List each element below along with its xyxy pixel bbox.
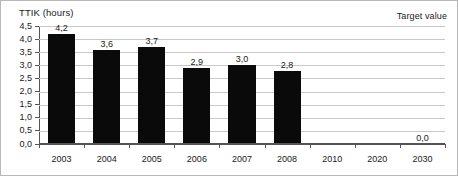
plot-area: 4,23,63,72,93,02,80,0 [39, 26, 445, 144]
x-axis-tick-label-2007: 2007 [219, 154, 264, 164]
y-axis-tick-label: 1,0 [19, 113, 35, 122]
x-axis-tick-mark [174, 144, 175, 148]
x-axis-tick-group [39, 144, 445, 148]
y-axis-tick-label: 3,0 [19, 61, 35, 70]
bar-value-label: 3,7 [146, 37, 159, 46]
y-axis-tick: 2,0 [19, 87, 39, 97]
x-axis-tick-mark [445, 144, 446, 148]
bar-value-label: 2,9 [191, 58, 204, 67]
bar[interactable]: 2,8 [274, 71, 301, 144]
x-axis-tick-label-2006: 2006 [174, 154, 219, 164]
x-axis-tick-label-2004: 2004 [84, 154, 129, 164]
y-axis-tick: 0,0 [19, 139, 39, 149]
y-axis-tick-label: 0,0 [19, 140, 35, 149]
bar[interactable]: 2,9 [183, 68, 210, 144]
bar-slot-2020[interactable] [355, 26, 400, 144]
bar[interactable]: 3,7 [138, 47, 165, 144]
y-axis-tick-label: 2,0 [19, 87, 35, 96]
bar-slot-2008[interactable]: 2,8 [265, 26, 310, 144]
y-axis-tick-label: 0,5 [19, 126, 35, 135]
bar-slot-2005[interactable]: 3,7 [129, 26, 174, 144]
bar-slot-2003[interactable]: 4,2 [39, 26, 84, 144]
y-axis-tick-group: 0,00,51,01,52,02,53,03,54,04,5 [1, 26, 39, 144]
bar-slot-2004[interactable]: 3,6 [84, 26, 129, 144]
x-axis-tick-mark [400, 144, 401, 148]
x-axis-label-group: 200320042005200620072008201020202030 [39, 154, 445, 164]
bar[interactable]: 3,0 [228, 65, 255, 144]
x-axis-tick-label-2030: 2030 [400, 154, 445, 164]
y-axis-tick: 4,5 [19, 21, 39, 31]
target-value-annotation: Target value [397, 11, 447, 21]
y-axis-tick: 2,5 [19, 73, 39, 83]
bar-value-label: 3,0 [236, 55, 249, 64]
y-axis-tick: 3,5 [19, 47, 39, 57]
x-axis-tick-mark [129, 144, 130, 148]
bar-value-label: 3,6 [100, 40, 113, 49]
x-axis-tick-mark [310, 144, 311, 148]
y-axis-title: TTIK (hours) [19, 7, 74, 18]
y-axis-tick-label: 2,5 [19, 74, 35, 83]
bar-value-label: 0,0 [416, 134, 429, 143]
bar-slot-2006[interactable]: 2,9 [174, 26, 219, 144]
y-axis-tick: 3,0 [19, 60, 39, 70]
y-axis-tick: 4,0 [19, 34, 39, 44]
x-axis-tick-mark [84, 144, 85, 148]
x-axis-tick-mark [219, 144, 220, 148]
x-axis-tick-label-2003: 2003 [39, 154, 84, 164]
y-axis-tick-label: 4,0 [19, 35, 35, 44]
y-axis-tick: 1,5 [19, 100, 39, 110]
x-axis-tick-label-2010: 2010 [310, 154, 355, 164]
x-axis-tick-label-2008: 2008 [265, 154, 310, 164]
y-axis-tick: 1,0 [19, 113, 39, 123]
bar-slot-2030[interactable]: 0,0 [400, 26, 445, 144]
x-axis-tick-mark [39, 144, 40, 148]
y-axis-tick-label: 3,5 [19, 48, 35, 57]
bar-value-label: 2,8 [281, 61, 294, 70]
y-axis-tick-label: 4,5 [19, 22, 35, 31]
x-axis-tick-label-2020: 2020 [355, 154, 400, 164]
x-axis-tick-mark [265, 144, 266, 148]
bar-chart-figure: TTIK (hours) Target value 0,00,51,01,52,… [0, 0, 458, 176]
bar-slot-2007[interactable]: 3,0 [219, 26, 264, 144]
bar-slot-2010[interactable] [310, 26, 355, 144]
y-axis-tick: 0,5 [19, 126, 39, 136]
bar[interactable]: 3,6 [93, 50, 120, 144]
bar-value-label: 4,2 [55, 24, 68, 33]
x-axis-tick-label-2005: 2005 [129, 154, 174, 164]
y-axis-tick-label: 1,5 [19, 100, 35, 109]
x-axis-tick-mark [355, 144, 356, 148]
bar-series: 4,23,63,72,93,02,80,0 [39, 26, 445, 144]
bar[interactable]: 4,2 [48, 34, 75, 144]
